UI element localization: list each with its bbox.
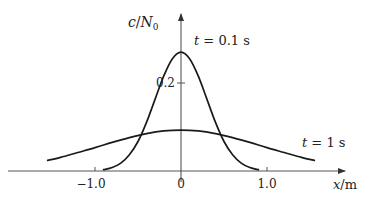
y-axis-label-sub: 0 — [153, 22, 159, 32]
axes — [8, 14, 345, 182]
diffusion-chart: −1.001.00.2 c/N0 x/m t = 0.1 s t = 1 s — [0, 0, 370, 198]
x-tick-label: 0 — [177, 177, 185, 191]
x-axis-label: x/m — [333, 177, 357, 192]
y-axis-label-var: c — [128, 14, 136, 30]
x-tick-label: 1.0 — [257, 177, 276, 191]
y-axis-label-n: N — [140, 14, 154, 30]
series-label-t1-rest: = 1 s — [307, 135, 345, 150]
series-label-t01: t = 0.1 s — [194, 33, 250, 48]
x-tick-label: −1.0 — [76, 177, 105, 191]
x-axis-label-unit: /m — [340, 177, 357, 192]
ticks: −1.001.00.2 — [76, 76, 276, 191]
series-label-t01-rest: = 0.1 s — [199, 33, 250, 48]
y-axis-label: c/N0 — [128, 14, 159, 32]
series-label-t1: t = 1 s — [302, 135, 345, 150]
